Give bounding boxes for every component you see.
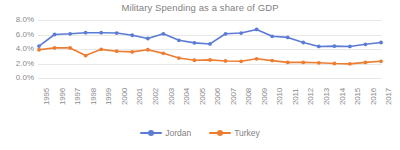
x-tick-label: 2012	[306, 88, 315, 105]
x-tick-label: 2017	[384, 88, 393, 105]
y-tick-label: 0.0%	[0, 73, 34, 82]
x-tick-label: 2008	[244, 88, 253, 105]
x-tick-label: 2013	[322, 88, 331, 105]
chart-container: Military Spending as a share of GDP 0.0%…	[0, 0, 400, 150]
series-jordan	[37, 28, 383, 49]
y-tick-label: 6.0%	[0, 30, 34, 39]
x-tick-label: 2009	[260, 88, 269, 105]
data-point	[270, 34, 274, 38]
x-tick-label: 1997	[73, 88, 82, 105]
x-axis: 1995199619971998199920002001200220032004…	[38, 79, 382, 123]
legend-entry-turkey[interactable]: Turkey	[209, 128, 260, 138]
data-point	[348, 62, 352, 66]
x-tick-label: 2005	[198, 88, 207, 105]
chart-legend: Jordan Turkey	[0, 128, 400, 138]
data-point	[130, 33, 134, 37]
data-point	[255, 57, 259, 61]
x-tick-label: 2007	[229, 88, 238, 105]
data-point	[286, 36, 290, 40]
x-tick-label: 2000	[120, 88, 129, 105]
data-point	[301, 61, 305, 65]
plot-area	[38, 20, 382, 78]
data-point	[193, 41, 197, 45]
data-point	[37, 44, 41, 48]
data-point	[317, 45, 321, 49]
data-point	[364, 42, 368, 46]
x-tick-label: 2011	[291, 89, 300, 105]
data-point	[37, 48, 41, 52]
x-tick-label: 1996	[58, 88, 67, 105]
x-tick-label: 2004	[182, 88, 191, 105]
series-lines	[38, 20, 382, 78]
data-point	[130, 50, 134, 54]
x-tick-label: 2015	[353, 88, 362, 105]
x-tick-label: 1998	[89, 88, 98, 105]
chart-title: Military Spending as a share of GDP	[0, 2, 400, 13]
data-point	[270, 59, 274, 63]
data-point	[348, 45, 352, 49]
y-tick-label: 8.0%	[0, 15, 34, 24]
data-point	[208, 42, 212, 46]
legend-marker-turkey	[209, 129, 231, 138]
legend-marker-jordan	[140, 129, 162, 138]
data-point	[286, 61, 290, 65]
data-point	[146, 37, 150, 41]
data-point	[68, 32, 72, 36]
data-point	[68, 46, 72, 50]
legend-label-jordan: Jordan	[165, 128, 191, 138]
x-tick-label: 2003	[167, 88, 176, 105]
data-point	[161, 51, 165, 55]
data-point	[146, 48, 150, 52]
data-point	[208, 58, 212, 62]
data-point	[332, 62, 336, 66]
data-point	[84, 31, 88, 35]
data-point	[53, 33, 57, 37]
legend-label-turkey: Turkey	[234, 128, 260, 138]
x-tick-label: 1995	[42, 88, 51, 105]
data-point	[99, 47, 103, 51]
data-point	[332, 44, 336, 48]
data-point	[193, 58, 197, 62]
series-turkey	[37, 46, 383, 66]
x-tick-label: 2016	[369, 88, 378, 105]
x-tick-label: 2010	[275, 88, 284, 105]
data-point	[255, 28, 259, 32]
data-point	[239, 31, 243, 35]
data-point	[224, 59, 228, 63]
data-point	[84, 54, 88, 58]
data-point	[177, 56, 181, 60]
legend-entry-jordan[interactable]: Jordan	[140, 128, 191, 138]
x-tick-label: 2002	[151, 88, 160, 105]
data-point	[301, 41, 305, 45]
data-point	[364, 61, 368, 65]
y-tick-label: 2.0%	[0, 59, 34, 68]
data-point	[317, 61, 321, 65]
data-point	[115, 31, 119, 35]
data-point	[53, 46, 57, 50]
data-point	[99, 31, 103, 35]
data-point	[224, 32, 228, 36]
y-tick-label: 4.0%	[0, 44, 34, 53]
x-tick-label: 1999	[104, 88, 113, 105]
x-tick-label: 2006	[213, 88, 222, 105]
data-point	[161, 32, 165, 36]
x-tick-label: 2014	[338, 88, 347, 105]
x-tick-label: 2001	[135, 88, 144, 105]
data-point	[379, 41, 383, 45]
data-point	[177, 38, 181, 42]
data-point	[115, 49, 119, 53]
data-point	[239, 59, 243, 63]
data-point	[379, 59, 383, 63]
